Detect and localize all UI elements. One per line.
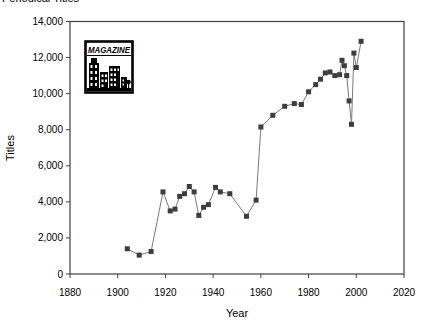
data-point [254, 198, 259, 203]
logo-window [123, 80, 125, 82]
logo-text: MAGAZINE [88, 45, 130, 55]
data-point [270, 113, 275, 118]
data-point [354, 65, 359, 70]
data-point [342, 63, 347, 68]
x-axis-title: Year [226, 307, 249, 319]
data-point [344, 73, 349, 78]
logo-window [111, 69, 113, 72]
logo-window [95, 71, 97, 74]
data-point [137, 253, 142, 258]
x-tick-label: 1960 [250, 287, 273, 298]
logo-window [102, 75, 104, 78]
x-tick-label: 1940 [202, 287, 225, 298]
data-point [359, 39, 364, 44]
logo-window [114, 69, 116, 72]
logo-building [87, 88, 131, 91]
logo-window [118, 69, 120, 72]
data-point [244, 214, 249, 219]
magazine-logo: MAGAZINE [86, 42, 133, 93]
data-point [332, 73, 337, 78]
x-tick-label: 2020 [393, 287, 416, 298]
data-point [318, 77, 323, 82]
logo-window [111, 79, 113, 82]
x-tick-label: 2000 [345, 287, 368, 298]
data-point [196, 213, 201, 218]
data-point [125, 246, 130, 251]
data-point [201, 205, 206, 210]
logo-window [123, 84, 125, 86]
y-tick-label: 10,000 [32, 88, 63, 99]
logo-window [91, 71, 93, 74]
data-point [168, 208, 173, 213]
data-point [299, 102, 304, 107]
data-point [177, 194, 182, 199]
y-tick-label: 6,000 [38, 160, 63, 171]
data-point [213, 185, 218, 190]
data-point [328, 70, 333, 75]
data-point [206, 202, 211, 207]
data-point [182, 191, 187, 196]
y-tick-label: 14,000 [32, 16, 63, 27]
logo-window [114, 74, 116, 77]
y-axis-title: Titles [4, 135, 16, 161]
logo-window [105, 80, 107, 83]
data-point [292, 101, 297, 106]
logo-window [105, 75, 107, 78]
data-point [192, 189, 197, 194]
logo-window [111, 74, 113, 77]
series-group [125, 39, 364, 258]
data-point [258, 125, 263, 130]
y-tick-label: 4,000 [38, 196, 63, 207]
chart-page: Periodical Titles 02,0004,0006,0008,0001… [0, 0, 426, 333]
data-point [313, 82, 318, 87]
x-tick-label: 1920 [154, 287, 177, 298]
logo-window [95, 77, 97, 80]
logo-window [111, 84, 113, 87]
chart-svg: 02,0004,0006,0008,00010,00012,00014,0001… [0, 0, 426, 333]
logo-tree-trunk [128, 82, 129, 88]
logo-window [91, 77, 93, 80]
y-tick-label: 0 [57, 269, 63, 280]
y-tick-label: 2,000 [38, 232, 63, 243]
data-point [323, 70, 328, 75]
data-point [349, 122, 354, 127]
data-point [351, 51, 356, 56]
data-point [161, 189, 166, 194]
x-tick-label: 1900 [107, 287, 130, 298]
data-point [347, 98, 352, 103]
logo-window [114, 84, 116, 87]
logo-window [114, 79, 116, 82]
logo-window [102, 80, 104, 83]
x-tick-label: 1880 [59, 287, 82, 298]
data-point [218, 189, 223, 194]
logo-window [91, 65, 93, 68]
data-point [173, 207, 178, 212]
logo-window [95, 65, 97, 68]
data-point [282, 104, 287, 109]
data-point [306, 89, 311, 94]
logo-window [102, 85, 104, 88]
y-tick-label: 12,000 [32, 52, 63, 63]
y-tick-label: 8,000 [38, 124, 63, 135]
data-point [187, 184, 192, 189]
x-tick-label: 1980 [297, 287, 320, 298]
logo-window [91, 83, 93, 86]
data-point [337, 72, 342, 77]
logo-window [95, 83, 97, 86]
data-point [149, 249, 154, 254]
data-point [227, 191, 232, 196]
data-point [340, 58, 345, 63]
